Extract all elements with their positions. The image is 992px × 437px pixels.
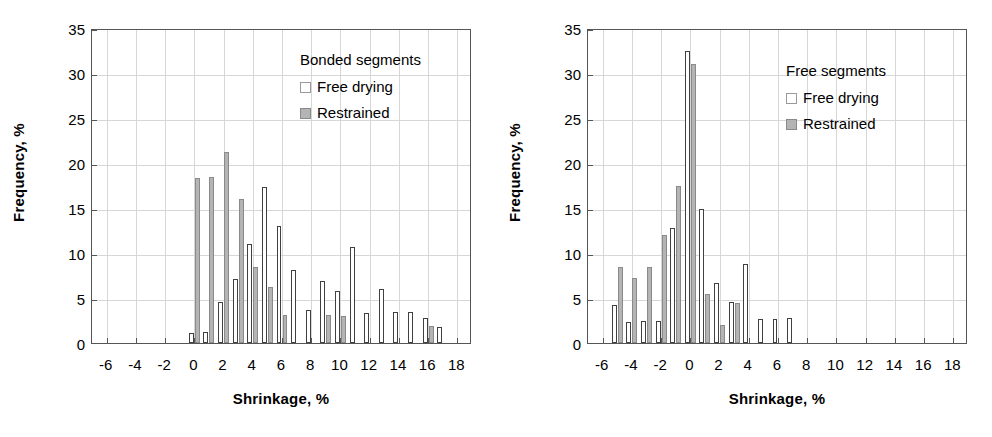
x-axis-title-right: Shrinkage, % [587,390,967,407]
bar-free [335,291,340,343]
legend-left: Bonded segments Free drying Restrained [300,52,421,131]
bar-free [773,319,778,343]
gridline-vertical [895,30,896,343]
bar-restrained [720,325,725,343]
y-tick-mark [92,165,97,166]
bar-free [233,279,238,343]
y-tick-mark [92,75,97,76]
x-tick-mark [836,338,837,343]
bar-free [656,321,661,343]
bar-free [729,302,734,343]
y-tick-mark [92,210,97,211]
bar-free [247,244,252,343]
x-tick-mark [107,338,108,343]
gridline-vertical [778,30,779,343]
bar-restrained [209,177,214,343]
y-tick-mark [588,165,593,166]
bar-free [379,289,384,343]
x-tick-mark [136,338,137,343]
bar-restrained [224,152,229,343]
gridline-vertical [165,30,166,343]
y-tick-mark [588,300,593,301]
y-tick-mark [92,300,97,301]
legend-label-free-drying-right: Free drying [803,90,879,106]
bar-free [306,310,311,343]
gridline-vertical [720,30,721,343]
bar-restrained [429,326,434,343]
legend-label-restrained-left: Restrained [317,105,390,121]
bar-free [437,327,442,343]
bar-free [714,283,719,343]
bar-restrained [239,199,244,343]
y-tick-mark [588,30,593,31]
x-tick-mark [807,338,808,343]
panel-bonded-segments: Frequency, % 05101520253035 -6-4-2024681… [0,0,496,437]
bar-restrained [341,316,346,343]
gridline-vertical [924,30,925,343]
bar-restrained [268,287,273,343]
bar-free [218,302,223,343]
gridline-horizontal [588,300,966,301]
plot-area-right [587,29,967,344]
legend-item-free-drying-left: Free drying [300,79,421,95]
bar-restrained [253,267,258,344]
bar-free [277,226,282,343]
bar-free [670,228,675,343]
gridline-horizontal [588,255,966,256]
y-tick-mark [588,120,593,121]
x-tick-mark [370,338,371,343]
x-tick-label: 18 [932,357,972,372]
bar-free [291,270,296,343]
gridline-vertical [603,30,604,343]
bar-restrained [326,315,331,343]
bar-free [612,305,617,343]
bar-free [203,332,208,343]
bar-free [262,187,267,343]
bar-restrained [705,294,710,343]
gridline-vertical [749,30,750,343]
bar-free [699,209,704,343]
x-tick-mark [924,338,925,343]
x-tick-mark [165,338,166,343]
gridline-horizontal [588,210,966,211]
y-tick-mark [588,210,593,211]
x-axis-title-left: Shrinkage, % [91,390,471,407]
bar-free [685,51,690,344]
gridline-vertical [136,30,137,343]
legend-right: Free segments Free drying Restrained [786,63,886,142]
bar-restrained [691,64,696,343]
white-square-icon [786,93,797,104]
gray-square-icon [786,119,797,130]
bar-restrained [283,315,288,343]
legend-item-restrained-right: Restrained [786,116,886,132]
bar-restrained [735,303,740,343]
y-tick-mark [588,75,593,76]
gridline-horizontal [588,75,966,76]
white-square-icon [300,82,311,93]
x-tick-mark [895,338,896,343]
bar-free [189,333,194,343]
x-tick-mark [457,338,458,343]
bar-free [743,264,748,343]
bar-restrained [647,267,652,344]
bar-free [393,312,398,344]
x-tick-mark [749,338,750,343]
legend-item-free-drying-right: Free drying [786,90,886,106]
bar-restrained [662,235,667,343]
gridline-vertical [282,30,283,343]
x-tick-mark [866,338,867,343]
legend-title-left: Bonded segments [300,52,421,68]
bar-free [626,322,631,343]
gridline-vertical [107,30,108,343]
x-tick-mark [311,338,312,343]
bar-free [364,313,369,343]
bar-free [320,281,325,343]
gridline-horizontal [588,165,966,166]
x-tick-mark [399,338,400,343]
gridline-vertical [457,30,458,343]
gridline-horizontal [92,210,470,211]
legend-title-right: Free segments [786,63,886,79]
gridline-vertical [953,30,954,343]
bar-free [641,321,646,343]
bar-restrained [618,267,623,344]
